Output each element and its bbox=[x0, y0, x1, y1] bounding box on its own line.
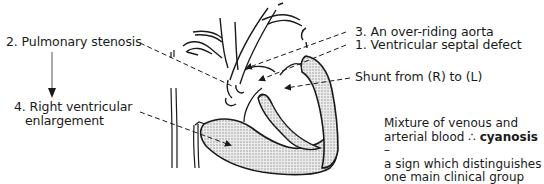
label-pulmonary-stenosis: 2. Pulmonary stenosis bbox=[6, 35, 142, 49]
leader-overriding-aorta bbox=[247, 32, 346, 68]
label-enlargement: enlargement bbox=[25, 114, 104, 128]
note-line-1: Mixture of venous and bbox=[384, 117, 544, 131]
note-line-2-pre: arterial blood ∴ bbox=[384, 130, 480, 144]
note-line-2-post: – bbox=[384, 143, 390, 157]
note-line-2: arterial blood ∴ cyanosis – bbox=[384, 131, 544, 158]
sequence-arrow bbox=[48, 52, 56, 98]
cyanosis-note: Mixture of venous and arterial blood ∴ c… bbox=[384, 117, 544, 184]
vena-cava bbox=[171, 50, 205, 168]
label-vsd: 1. Ventricular septal defect bbox=[355, 38, 521, 52]
label-right-ventricular: 4. Right ventricular bbox=[14, 100, 132, 114]
note-line-3: a sign which distinguishes bbox=[384, 158, 544, 172]
label-shunt: Shunt from (R) to (L) bbox=[355, 70, 482, 84]
cyanosis-term: cyanosis bbox=[480, 130, 538, 144]
great-vessels bbox=[183, 3, 307, 106]
leader-pulmonary-stenosis bbox=[140, 43, 232, 86]
note-line-4: one main clinical group bbox=[384, 171, 544, 184]
